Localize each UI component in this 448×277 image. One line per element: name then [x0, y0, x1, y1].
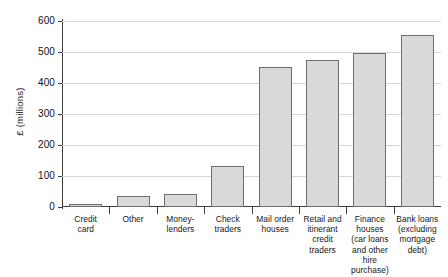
x-axis-tick-mark	[252, 207, 253, 214]
x-axis-category-label: Mail orderhouses	[252, 214, 299, 234]
y-axis-tick-label: 400	[19, 78, 55, 88]
x-axis-label-line: mortgage	[399, 234, 435, 244]
y-axis-tick-label: 100	[19, 171, 55, 181]
x-axis-category-label: Money-lenders	[157, 214, 204, 234]
x-axis-category-label: Checktraders	[204, 214, 251, 234]
x-axis-label-line: itinerant	[307, 224, 337, 234]
x-axis-label-line: lenders	[167, 224, 195, 234]
x-axis-label-line: and other	[352, 245, 388, 255]
y-axis-tick-label: 500	[19, 47, 55, 57]
bar-chart-figure: £ (millions) 0100200300400500600 Creditc…	[0, 0, 448, 277]
x-axis-tick-mark	[157, 207, 158, 214]
x-axis-category-label: Creditcard	[62, 214, 109, 234]
x-axis-label-line: (excluding	[398, 224, 437, 234]
x-axis-label-line: Retail and	[303, 214, 341, 224]
bar	[164, 194, 197, 207]
x-axis-tick-mark	[394, 207, 395, 214]
x-axis-label-line: (car loans	[351, 234, 388, 244]
x-axis-label-line: hire purchase)	[351, 255, 389, 275]
x-axis-label-line: Bank loans	[396, 214, 438, 224]
x-axis-label-line: Mail order	[256, 214, 294, 224]
x-axis-tick-mark	[346, 207, 347, 214]
x-axis-label-line: houses	[356, 224, 383, 234]
y-axis-tick-label: 300	[19, 109, 55, 119]
y-axis-tick-label: 200	[19, 140, 55, 150]
x-axis-label-line: card	[77, 224, 94, 234]
bar	[259, 67, 292, 207]
x-axis-label-line: Other	[122, 214, 143, 224]
x-axis-category-labels: CreditcardOtherMoney-lendersChecktraders…	[62, 214, 441, 276]
x-axis-category-label: Other	[109, 214, 156, 224]
y-axis-tick-label: 600	[19, 16, 55, 26]
bar	[211, 166, 244, 207]
x-axis-category-label: Retail anditinerantcredit traders	[299, 214, 346, 255]
bar	[401, 35, 434, 207]
x-axis-category-label: Bank loans(excludingmortgagedebt)	[394, 214, 441, 255]
x-axis-tick-mark	[204, 207, 205, 214]
x-axis-tick-mark	[109, 207, 110, 214]
x-axis-label-line: Finance	[355, 214, 385, 224]
x-axis-label-line: Credit	[74, 214, 97, 224]
x-axis-label-line: Check	[216, 214, 240, 224]
x-axis-label-line: debt)	[408, 245, 427, 255]
bar	[306, 60, 339, 207]
bar	[117, 196, 150, 207]
bars-layer	[62, 21, 441, 208]
x-axis-label-line: traders	[215, 224, 241, 234]
bar	[353, 53, 386, 207]
y-axis-tick-label: 0	[19, 202, 55, 212]
x-axis-label-line: houses	[262, 224, 289, 234]
x-axis-tick-mark	[299, 207, 300, 214]
x-axis-label-line: Money-	[166, 214, 194, 224]
x-axis-category-label: Financehouses(car loansand otherhire pur…	[346, 214, 393, 275]
x-axis-label-line: credit traders	[309, 234, 335, 254]
y-axis-tick-labels: 0100200300400500600	[19, 0, 55, 277]
